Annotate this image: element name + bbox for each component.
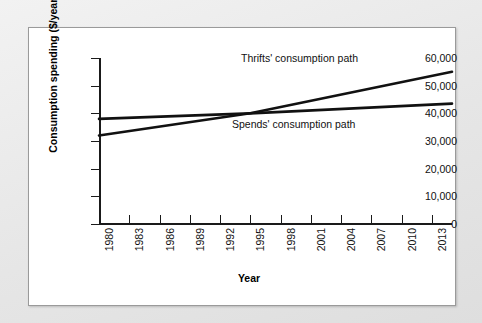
chart-panel: Consumption spending ($/year) 010,00020,…: [28, 27, 456, 306]
annotation-spends: Spends' consumption path: [232, 118, 355, 130]
figure-container: Consumption spending ($/year) 010,00020,…: [0, 0, 482, 323]
annotation-thrifts: Thrifts' consumption path: [241, 52, 358, 64]
plot-area: Consumption spending ($/year) 010,00020,…: [29, 28, 457, 307]
x-axis-title: Year: [179, 272, 319, 284]
series-lines: [29, 28, 457, 307]
line-spends: [99, 104, 452, 119]
